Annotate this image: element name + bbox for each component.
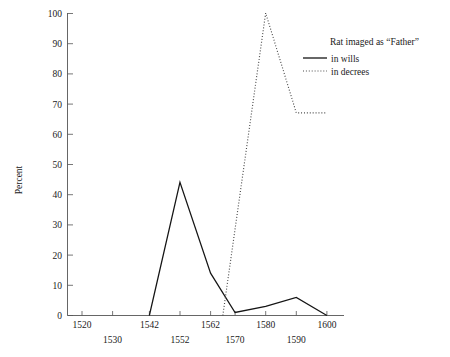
y-tick-label-80: 80 [53,69,63,79]
y-tick-label-0: 0 [57,311,62,321]
x-tick-label-1542: 1542 [140,320,159,330]
y-tick-label-40: 40 [53,190,63,200]
y-tick-label-100: 100 [48,9,63,19]
x-tick-label-1600: 1600 [317,320,336,330]
legend-label-in-decrees: in decrees [331,67,370,77]
series-line-in-wills [149,182,327,315]
chart-figure: 100 90 80 70 60 50 40 30 20 10 0 Percent… [0,0,450,357]
x-tick-label-1570: 1570 [226,335,245,345]
y-tick-label-50: 50 [53,160,63,170]
y-tick-label-10: 10 [53,281,63,291]
legend-label-in-wills: in wills [331,54,360,64]
y-tick-label-20: 20 [53,251,63,261]
y-tick-label-30: 30 [53,220,63,230]
x-tick-label-1530: 1530 [103,335,122,345]
x-tick-label-1580: 1580 [256,320,275,330]
y-axis-ticks [68,14,74,316]
x-tick-label-1590: 1590 [287,335,306,345]
line-chart: 100 90 80 70 60 50 40 30 20 10 0 Percent… [0,0,450,357]
x-tick-label-1520: 1520 [73,320,92,330]
y-tick-label-90: 90 [53,39,63,49]
y-axis-title: Percent [14,165,24,194]
x-tick-label-1562: 1562 [201,320,220,330]
x-axis-ticks [82,311,327,316]
legend-title: Rat imaged as “Father” [330,37,419,47]
y-tick-label-70: 70 [53,100,63,110]
y-tick-label-60: 60 [53,130,63,140]
chart-legend: Rat imaged as “Father” in wills in decre… [303,37,419,77]
x-tick-label-1552: 1552 [171,335,190,345]
